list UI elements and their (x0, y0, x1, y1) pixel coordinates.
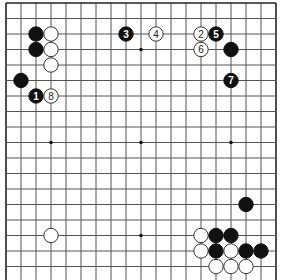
move-number: 5 (213, 29, 219, 40)
white-stone: 6 (194, 42, 208, 56)
black-stone (224, 42, 238, 56)
black-stone (29, 42, 43, 56)
move-number: 6 (198, 44, 204, 55)
white-stone (44, 228, 58, 242)
go-board: 18342567 (0, 0, 283, 280)
black-stone: 5 (209, 27, 223, 41)
black-stone: 1 (29, 89, 43, 103)
black-stone (254, 244, 268, 258)
black-stone: 7 (224, 73, 238, 87)
white-stone: 8 (44, 89, 58, 103)
move-number: 8 (48, 91, 54, 102)
star-point (229, 141, 233, 145)
white-stone (44, 42, 58, 56)
white-stone (224, 259, 238, 273)
white-stone (194, 244, 208, 258)
black-stone (224, 228, 238, 242)
black-stone (239, 197, 253, 211)
star-point (49, 141, 53, 145)
white-stone (44, 58, 58, 72)
black-stone (209, 244, 223, 258)
black-stone (209, 228, 223, 242)
star-point (139, 141, 143, 145)
move-number: 4 (153, 29, 159, 40)
star-point (139, 48, 143, 52)
white-stone (44, 27, 58, 41)
move-number: 7 (228, 75, 234, 86)
white-stone: 2 (194, 27, 208, 41)
move-number: 1 (33, 91, 39, 102)
white-stone (194, 228, 208, 242)
black-stone (14, 73, 28, 87)
white-stone (224, 244, 238, 258)
move-number: 2 (198, 29, 204, 40)
star-point (139, 234, 143, 238)
black-stone: 3 (119, 27, 133, 41)
move-number: 3 (123, 29, 129, 40)
white-stone: 4 (149, 27, 163, 41)
white-stone (239, 259, 253, 273)
black-stone (29, 27, 43, 41)
white-stone (209, 259, 223, 273)
black-stone (239, 244, 253, 258)
